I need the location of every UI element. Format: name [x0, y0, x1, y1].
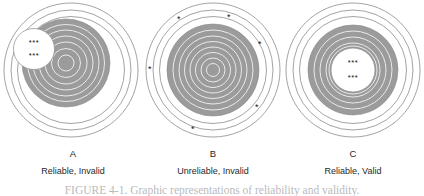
- shot-marker-5: *: [191, 124, 195, 134]
- shot-marker-2: *: [227, 12, 231, 22]
- figure-caption-text: FIGURE 4-1. Graphic representations of r…: [0, 185, 424, 196]
- target-panel-b: * * * * * *: [143, 0, 283, 150]
- panel-caption-c: Reliable, Valid: [283, 165, 423, 177]
- panel-letter-a: A: [3, 148, 143, 160]
- panel-letter-c: C: [283, 148, 423, 160]
- panel-caption-b: Unreliable, Invalid: [143, 165, 283, 177]
- shot-marker-6: *: [148, 64, 152, 74]
- panel-label-group-b: B Unreliable, Invalid: [143, 148, 283, 177]
- panel-label-group-c: C Reliable, Valid: [283, 148, 423, 177]
- shot-cluster-row-2: ***: [348, 73, 359, 82]
- shot-marker-3: *: [258, 39, 262, 49]
- target-diagram-b: * * * * * *: [143, 0, 283, 146]
- shot-cluster-row-1: ***: [348, 58, 359, 67]
- shot-marker-4: *: [255, 102, 259, 112]
- shot-cluster-bubble: [14, 29, 55, 70]
- figure-caption: FIGURE 4-1. Graphic representations of r…: [0, 185, 424, 196]
- panel-letter-b: B: [143, 148, 283, 160]
- target-disc: [167, 24, 259, 116]
- shot-cluster-bubble: [331, 48, 375, 92]
- shot-marker-1: *: [177, 14, 181, 24]
- reliability-validity-figure: *** *** * * * * * *: [0, 0, 424, 196]
- panel-caption-a: Reliable, Invalid: [3, 165, 143, 177]
- target-diagram-c: *** ***: [283, 0, 423, 146]
- target-diagram-a: *** ***: [3, 0, 143, 146]
- panel-labels: A Reliable, Invalid B Unreliable, Invali…: [0, 148, 424, 182]
- panel-label-group-a: A Reliable, Invalid: [3, 148, 143, 177]
- target-panel-a: *** ***: [3, 0, 143, 150]
- shot-cluster-row-1: ***: [29, 38, 40, 47]
- shot-cluster-row-2: ***: [29, 51, 40, 60]
- target-panel-c: *** ***: [283, 0, 423, 150]
